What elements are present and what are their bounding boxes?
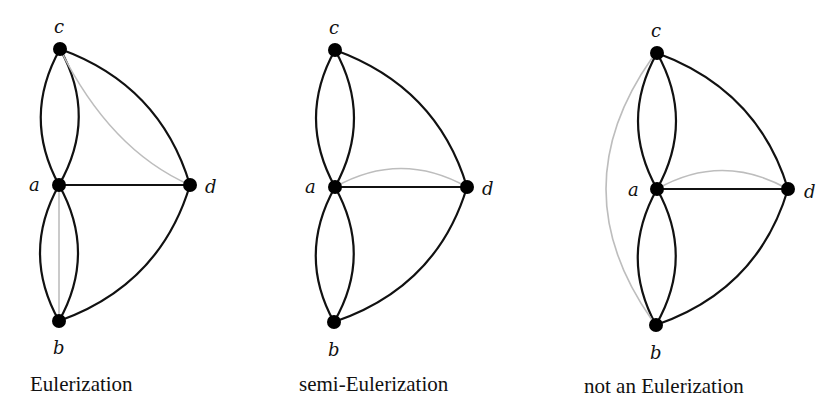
label-a: a [305,176,316,197]
edge-a-b-right [656,189,676,325]
vertex-b [649,318,663,332]
vertex-d [460,180,474,194]
edge-c-a-left [41,49,60,185]
label-b: b [650,342,662,363]
label-d: d [205,176,217,197]
vertex-b [52,314,66,328]
edge-a-b-right [334,187,354,322]
vertex-d [781,182,795,196]
edge-c-a-left [316,50,335,187]
caption-not-eulerization: not an Eulerization [584,374,744,398]
label-d: d [804,181,816,202]
edge-a-b-left [638,189,657,325]
edge-a-b-left [316,187,335,322]
edge-c-a-left [638,53,657,189]
added-edge-a-d [335,169,467,188]
edge-c-a-right [335,50,354,187]
edge-a-b-left [40,185,59,321]
vertex-a [328,180,342,194]
vertex-a [52,178,66,192]
caption-eulerization: Eulerization [30,372,133,396]
label-c: c [329,17,339,38]
label-c: c [651,20,661,41]
vertex-c [650,46,664,60]
panel-semi-eulerization: c a d b semi-Eulerization [299,17,494,396]
label-a: a [628,179,639,200]
eulerization-figure: c a d b Eulerization c a d b semi-Euleri… [0,0,833,401]
added-edge-a-d [657,171,788,190]
edge-a-b-right [59,185,78,321]
label-a: a [29,174,40,195]
vertex-c [328,43,342,57]
edge-c-a-right [657,53,676,189]
caption-semi-eulerization: semi-Eulerization [299,372,449,396]
label-b: b [53,337,65,358]
label-b: b [328,339,340,360]
panel-eulerization: c a d b Eulerization [29,16,217,396]
edge-c-a-right [59,49,79,185]
label-c: c [54,16,64,37]
vertex-b [327,315,341,329]
vertex-c [53,42,67,56]
vertex-a [650,182,664,196]
label-d: d [482,178,494,199]
panel-not-eulerization: c a d b not an Eulerization [584,20,816,398]
vertex-d [183,178,197,192]
